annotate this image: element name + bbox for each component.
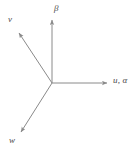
- vector-diagram: β v w u, α: [0, 0, 138, 152]
- vector-w: [21, 83, 52, 132]
- vector-v: [19, 33, 52, 83]
- axis-label-v: v: [8, 15, 12, 24]
- axis-label-u-alpha: u, α: [113, 76, 128, 85]
- axis-label-w: w: [9, 136, 15, 145]
- axis-label-beta: β: [54, 4, 59, 13]
